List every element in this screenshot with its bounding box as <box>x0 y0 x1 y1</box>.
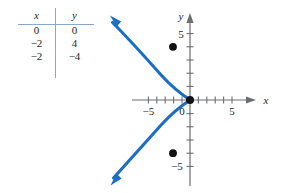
y-axis-label: y <box>178 10 184 22</box>
graph-panel: x y −5 5 5 −5 0 <box>96 0 286 193</box>
y-tick-label-neg5: −5 <box>171 160 183 172</box>
figure-root: x y 0 0 −2 4 −2 −4 <box>0 0 286 193</box>
table-header-rule <box>18 24 94 25</box>
point-origin <box>186 96 194 104</box>
x-axis-arrow-icon <box>246 96 256 103</box>
point-upper <box>169 43 177 51</box>
column-header-y: y <box>55 6 94 24</box>
cell-y: 4 <box>55 37 94 50</box>
parabola-graph: x y −5 5 5 −5 0 <box>96 0 286 193</box>
y-axis-arrow-icon <box>186 13 193 23</box>
table-header-row: x y <box>18 6 94 24</box>
cell-y: −4 <box>55 50 94 63</box>
x-axis-label: x <box>263 94 269 106</box>
cell-x: −2 <box>18 37 55 50</box>
cell-x: 0 <box>18 24 55 37</box>
table: x y 0 0 −2 4 −2 −4 <box>18 6 94 63</box>
y-tick-label-5: 5 <box>178 28 184 40</box>
point-lower <box>169 149 177 157</box>
curve-arrow-lower-icon <box>111 174 122 186</box>
table-row: −2 4 <box>18 37 94 50</box>
x-tick-label-neg5: −5 <box>143 105 155 117</box>
table-row: 0 0 <box>18 24 94 37</box>
x-tick-label-5: 5 <box>229 105 235 117</box>
cell-y: 0 <box>55 24 94 37</box>
table-row: −2 −4 <box>18 50 94 63</box>
origin-label: 0 <box>179 105 185 117</box>
value-table: x y 0 0 −2 4 −2 −4 <box>18 6 94 80</box>
cell-x: −2 <box>18 50 55 63</box>
table-column-divider <box>55 8 56 78</box>
column-header-x: x <box>18 6 55 24</box>
